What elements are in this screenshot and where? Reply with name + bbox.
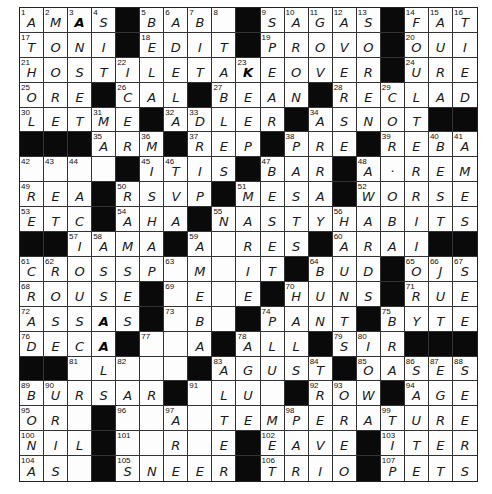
grid-cell[interactable]: G [429, 381, 453, 406]
grid-cell[interactable]: E [405, 132, 429, 157]
grid-cell[interactable]: I [188, 157, 212, 182]
grid-cell[interactable]: O [44, 58, 68, 83]
grid-cell[interactable]: 84T [309, 357, 333, 382]
grid-cell[interactable]: T [429, 307, 453, 332]
grid-cell[interactable]: 14F [405, 8, 429, 33]
grid-cell[interactable]: A [261, 83, 285, 108]
grid-cell[interactable]: L [212, 108, 236, 133]
grid-cell[interactable]: E [357, 83, 381, 108]
grid-cell[interactable]: I [309, 456, 333, 481]
grid-cell[interactable]: A [188, 332, 212, 357]
grid-cell[interactable]: O [333, 456, 357, 481]
grid-cell[interactable]: 2M [44, 8, 68, 33]
grid-cell[interactable]: R [44, 83, 68, 108]
grid-cell[interactable]: R [285, 33, 309, 58]
grid-cell[interactable]: 10A [285, 8, 309, 33]
grid-cell[interactable]: 96 [116, 406, 140, 431]
grid-cell[interactable]: 26C [116, 83, 140, 108]
grid-cell[interactable]: A [381, 232, 405, 257]
grid-cell[interactable]: 19P [261, 33, 285, 58]
grid-cell[interactable]: C [68, 207, 92, 232]
grid-cell[interactable] [212, 307, 236, 332]
grid-cell[interactable]: 58A [92, 232, 116, 257]
grid-cell[interactable]: 36M [140, 132, 164, 157]
grid-cell[interactable]: R [285, 456, 309, 481]
grid-cell[interactable]: 23K [236, 58, 260, 83]
grid-cell[interactable]: 86S [405, 357, 429, 382]
grid-cell[interactable]: A [309, 182, 333, 207]
grid-cell[interactable]: E [333, 132, 357, 157]
grid-cell[interactable] [164, 332, 188, 357]
grid-cell[interactable]: E [236, 108, 260, 133]
grid-cell[interactable]: G [236, 357, 260, 382]
grid-cell[interactable]: T [405, 431, 429, 456]
grid-cell[interactable]: T [44, 207, 68, 232]
grid-cell[interactable]: I [92, 33, 116, 58]
grid-cell[interactable]: S [429, 182, 453, 207]
grid-cell[interactable]: 56H [333, 207, 357, 232]
grid-cell[interactable]: E [453, 381, 477, 406]
grid-cell[interactable]: T [188, 58, 212, 83]
grid-cell[interactable]: T [333, 307, 357, 332]
grid-cell[interactable]: U [261, 357, 285, 382]
grid-cell[interactable]: 50R [116, 182, 140, 207]
grid-cell[interactable]: 77 [140, 332, 164, 357]
grid-cell[interactable]: M [188, 257, 212, 282]
grid-cell[interactable]: 75B [381, 307, 405, 332]
grid-cell[interactable]: E [212, 431, 236, 456]
grid-cell[interactable]: 64B [309, 257, 333, 282]
grid-cell[interactable]: O [285, 58, 309, 83]
grid-cell[interactable] [92, 157, 116, 182]
grid-cell[interactable]: 81 [68, 357, 92, 382]
grid-cell[interactable] [188, 431, 212, 456]
grid-cell[interactable]: 8 [212, 8, 236, 33]
grid-cell[interactable]: 12A [333, 8, 357, 33]
grid-cell[interactable]: S [453, 207, 477, 232]
grid-cell[interactable]: 61C [20, 257, 44, 282]
grid-cell[interactable]: 78A [236, 332, 260, 357]
grid-cell[interactable]: E [188, 282, 212, 307]
grid-cell[interactable]: R [309, 132, 333, 157]
grid-cell[interactable]: B [188, 307, 212, 332]
grid-cell[interactable]: R [140, 381, 164, 406]
grid-cell[interactable]: E [164, 456, 188, 481]
grid-cell[interactable]: E [429, 157, 453, 182]
grid-cell[interactable]: E [236, 406, 260, 431]
grid-cell[interactable]: 42 [20, 157, 44, 182]
grid-cell[interactable]: U [68, 282, 92, 307]
grid-cell[interactable]: A [164, 207, 188, 232]
grid-cell[interactable]: U [429, 33, 453, 58]
grid-cell[interactable]: 6A [164, 8, 188, 33]
grid-cell[interactable]: 100N [20, 431, 44, 456]
grid-cell[interactable]: S [285, 182, 309, 207]
grid-cell[interactable]: 31M [92, 108, 116, 133]
grid-cell[interactable]: T [68, 108, 92, 133]
grid-cell[interactable]: 97A [164, 406, 188, 431]
grid-cell[interactable]: R [405, 157, 429, 182]
grid-cell[interactable]: 72A [20, 307, 44, 332]
grid-cell[interactable]: S [285, 357, 309, 382]
grid-cell[interactable]: H [140, 207, 164, 232]
grid-cell[interactable]: P [236, 132, 260, 157]
grid-cell[interactable]: 7B [188, 8, 212, 33]
grid-cell[interactable]: 70H [285, 282, 309, 307]
grid-cell[interactable]: 67S [453, 257, 477, 282]
grid-cell[interactable]: E [453, 307, 477, 332]
grid-cell[interactable]: 85O [357, 357, 381, 382]
grid-cell[interactable]: T [92, 58, 116, 83]
grid-cell[interactable]: A [92, 307, 116, 332]
grid-cell[interactable] [68, 406, 92, 431]
grid-cell[interactable]: 15A [429, 8, 453, 33]
grid-cell[interactable]: 34A [309, 108, 333, 133]
grid-cell[interactable]: 105S [116, 456, 140, 481]
grid-cell[interactable]: L [92, 357, 116, 382]
grid-cell[interactable]: S [261, 207, 285, 232]
grid-cell[interactable]: 20O [405, 33, 429, 58]
grid-cell[interactable]: E [333, 431, 357, 456]
grid-cell[interactable]: 11G [309, 8, 333, 33]
grid-cell[interactable]: 69 [164, 282, 188, 307]
grid-cell[interactable]: R [116, 132, 140, 157]
grid-cell[interactable]: A [357, 406, 381, 431]
grid-cell[interactable] [140, 431, 164, 456]
grid-cell[interactable]: R [44, 406, 68, 431]
